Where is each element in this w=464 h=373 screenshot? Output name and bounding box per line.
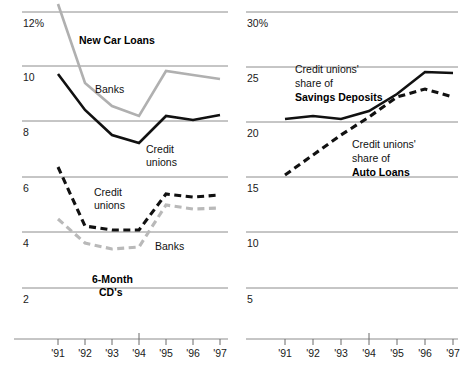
left-ytick-1: 10 xyxy=(23,71,35,83)
left-xtick-6: '97 xyxy=(213,347,227,359)
right-y-tick-labels: 30% 25 20 15 10 5 xyxy=(247,17,268,305)
right-ytick-1: 25 xyxy=(247,72,259,84)
right-xtick-1: '92 xyxy=(306,347,320,359)
right-ytick-5: 5 xyxy=(247,293,253,305)
right-x-tick-labels: '91 '92 '93 '94 '95 '96 '97 xyxy=(278,347,460,359)
right-ytick-4: 10 xyxy=(247,237,259,249)
right-panel: 30% 25 20 15 10 5 Credit unions' share o… xyxy=(232,0,464,373)
cds-title-line1: 6-Month xyxy=(92,273,133,285)
right-ytick-2: 20 xyxy=(247,127,259,139)
left-ytick-2: 8 xyxy=(23,126,29,138)
right-ytick-0: 30% xyxy=(247,17,268,29)
left-panel-svg: 12% 10 8 6 4 2 New Car Loans Banks Credi… xyxy=(0,0,232,373)
left-panel: 12% 10 8 6 4 2 New Car Loans Banks Credi… xyxy=(0,0,232,373)
left-y-tick-labels: 12% 10 8 6 4 2 xyxy=(23,17,44,305)
left-ytick-0: 12% xyxy=(23,17,44,29)
label-creditunions-top-1: Credit xyxy=(146,143,174,155)
left-ytick-4: 4 xyxy=(23,237,29,249)
label-savings-3: Savings Deposits xyxy=(295,91,383,103)
label-auto-1: Credit unions' xyxy=(352,138,416,150)
left-xtick-0: '91 xyxy=(51,347,65,359)
series-creditunions-cds xyxy=(58,167,220,230)
left-ytick-5: 2 xyxy=(23,293,29,305)
left-xtick-4: '95 xyxy=(159,347,173,359)
left-xtick-5: '96 xyxy=(186,347,200,359)
series-banks-cds xyxy=(58,205,220,249)
left-xtick-2: '93 xyxy=(105,347,119,359)
right-gridlines xyxy=(246,12,458,288)
left-x-tick-labels: '91 '92 '93 '94 '95 '96 '97 xyxy=(51,347,227,359)
label-creditunions-bottom-1: Credit xyxy=(94,186,122,198)
label-creditunions-bottom-2: unions xyxy=(94,199,125,211)
left-xtick-1: '92 xyxy=(78,347,92,359)
right-xtick-6: '97 xyxy=(446,347,460,359)
right-xtick-0: '91 xyxy=(278,347,292,359)
label-auto-3: Auto Loans xyxy=(352,166,410,178)
label-auto-2: share of xyxy=(352,152,390,164)
figure-root: 12% 10 8 6 4 2 New Car Loans Banks Credi… xyxy=(0,0,464,373)
left-xtick-3: '94 xyxy=(132,347,146,359)
label-savings-2: share of xyxy=(295,77,333,89)
label-savings-1: Credit unions' xyxy=(295,63,359,75)
series-creditunions-newcarloans xyxy=(58,74,220,143)
right-xtick-2: '93 xyxy=(334,347,348,359)
right-xtick-3: '94 xyxy=(362,347,376,359)
right-panel-svg: 30% 25 20 15 10 5 Credit unions' share o… xyxy=(232,0,464,373)
newcarloans-title: New Car Loans xyxy=(79,34,155,46)
left-gridlines xyxy=(22,12,228,288)
right-ytick-3: 15 xyxy=(247,182,259,194)
label-banks-bottom: Banks xyxy=(155,240,184,252)
label-banks-top: Banks xyxy=(95,83,124,95)
right-xtick-4: '95 xyxy=(390,347,404,359)
right-xtick-5: '96 xyxy=(418,347,432,359)
label-creditunions-top-2: unions xyxy=(146,156,177,168)
cds-title-line2: CD's xyxy=(99,286,123,298)
series-banks-newcarloans xyxy=(58,4,220,116)
left-ytick-3: 6 xyxy=(23,182,29,194)
